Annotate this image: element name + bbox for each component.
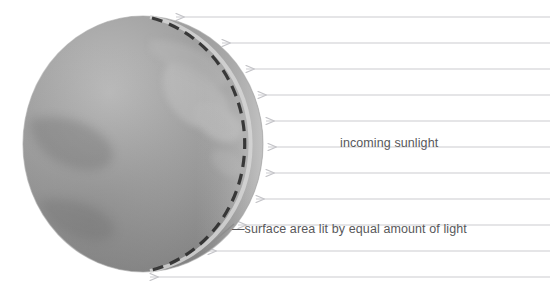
planet-sphere	[23, 16, 263, 272]
sunlight-sphere-diagram	[0, 0, 550, 284]
lower-left-shadow	[23, 16, 263, 272]
surface-area-lit-label: —surface area lit by equal amount of lig…	[232, 222, 467, 236]
incoming-sunlight-label: incoming sunlight	[340, 136, 438, 150]
diagram-canvas: incoming sunlight —surface area lit by e…	[0, 0, 550, 284]
